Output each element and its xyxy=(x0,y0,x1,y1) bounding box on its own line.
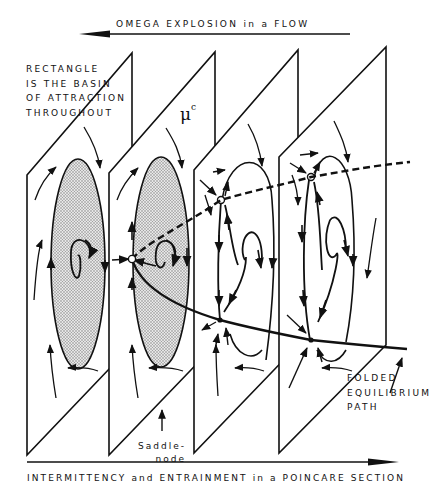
bottom-arrow-label: INTERMITTENCY and ENTRAINMENT in a POINC… xyxy=(27,471,405,486)
saddle-node-label: Saddle- node xyxy=(138,440,186,466)
basin-note: RECTANGLE IS THE BASIN OF ATTRACTION THR… xyxy=(26,62,126,120)
mu-critical-label: μc xyxy=(180,103,196,121)
top-arrow-label: OMEGA EXPLOSION in a FLOW xyxy=(116,17,309,32)
omega-explosion-arrow xyxy=(79,31,350,38)
folded-path-label: FOLDED EQUILIBRIUM PATH xyxy=(347,371,431,415)
intermittency-arrow xyxy=(27,459,399,466)
mu-symbol: μ xyxy=(180,104,191,124)
mu-superscript: c xyxy=(191,102,196,112)
